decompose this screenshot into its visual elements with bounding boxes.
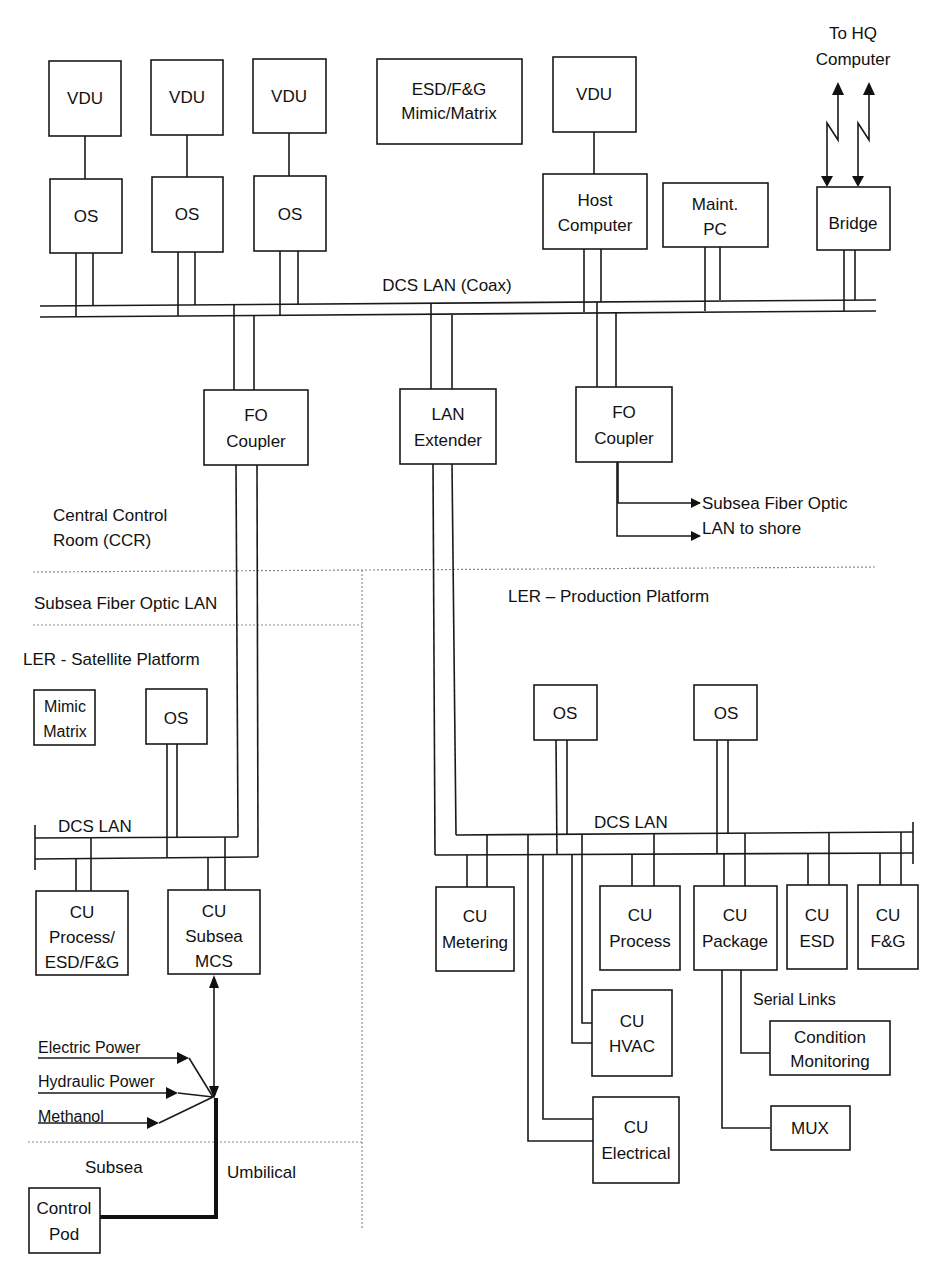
cu-line-1: CU xyxy=(624,1118,649,1137)
cu-line-2: Electrical xyxy=(602,1144,671,1163)
subsea-label: Subsea xyxy=(85,1158,143,1177)
host-computer-line-2: Computer xyxy=(558,216,633,235)
cu-line-1: CU xyxy=(70,903,95,922)
ccr-zone-label: Central Control Room (CCR) xyxy=(53,506,167,550)
production-dcs-lan-label: DCS LAN xyxy=(594,813,668,832)
esd-mimic-matrix: ESD/F&G Mimic/Matrix xyxy=(377,59,522,144)
fo-coupler-right: FO Coupler Subsea Fiber Optic LAN to sho… xyxy=(576,302,848,538)
vdu-label: VDU xyxy=(576,85,612,104)
cu-line-2: Process/ xyxy=(49,928,115,947)
fo-coupler-line-2: Coupler xyxy=(594,429,654,448)
condition-monitoring-line-1: Condition xyxy=(794,1028,866,1047)
fo-coupler-right-box[interactable] xyxy=(576,387,672,462)
condition-monitoring-line-2: Monitoring xyxy=(790,1052,869,1071)
cu-line-1: CU xyxy=(723,906,748,925)
cu-package-box[interactable] xyxy=(694,886,777,970)
maint-pc-line-1: Maint. xyxy=(692,195,738,214)
maint-pc: Maint. PC xyxy=(663,183,768,311)
cu-line-3: MCS xyxy=(195,952,233,971)
lan-extender-box[interactable] xyxy=(400,389,496,464)
satellite-dcs-lan-label: DCS LAN xyxy=(58,817,132,836)
host-computer-line-1: Host xyxy=(578,191,613,210)
cu-metering-box[interactable] xyxy=(436,887,514,971)
cu-process-box[interactable] xyxy=(600,886,680,970)
arrow-down-icon xyxy=(852,176,864,187)
esd-mimic-matrix-box[interactable] xyxy=(377,59,522,144)
dcs-network-diagram: VDU OS VDU OS VDU OS ESD/F&G Mimic/Matri… xyxy=(0,0,948,1272)
to-hq-line-1: To HQ xyxy=(829,24,877,43)
vdu-label: VDU xyxy=(169,88,205,107)
lan-extender-line-1: LAN xyxy=(431,405,464,424)
to-hq-line-2: Computer xyxy=(816,50,891,69)
cu-line-1: CU xyxy=(463,907,488,926)
arrow-right-icon xyxy=(147,1117,159,1129)
esd-mimic-line-2: Mimic/Matrix xyxy=(401,104,497,123)
fo-coupler-line-1: FO xyxy=(244,406,268,425)
vdu-os-column-1: VDU OS xyxy=(49,61,122,316)
cu-line-2: HVAC xyxy=(609,1037,655,1056)
os-label: OS xyxy=(175,205,200,224)
satellite-platform: LER - Satellite Platform Mimic Matrix OS… xyxy=(23,650,296,1253)
mux-label: MUX xyxy=(791,1119,829,1138)
cu-line-1: CU xyxy=(876,906,901,925)
fo-coupler-left-box[interactable] xyxy=(204,390,308,465)
ccr-label-line-2: Room (CCR) xyxy=(53,531,151,550)
arrow-down-icon xyxy=(821,176,833,187)
vdu-label: VDU xyxy=(271,87,307,106)
host-computer-box[interactable] xyxy=(543,174,647,249)
cu-line-2: Process xyxy=(609,932,670,951)
hq-link-1 xyxy=(827,90,838,182)
fo-coupler-line-2: Coupler xyxy=(226,432,286,451)
os-label: OS xyxy=(164,709,189,728)
umbilical-label: Umbilical xyxy=(227,1163,296,1182)
arrow-right-icon xyxy=(166,1087,178,1099)
control-pod-line-2: Pod xyxy=(49,1225,79,1244)
arrow-up-icon xyxy=(863,82,875,95)
production-platform: LER – Production Platform OS OS DCS LAN … xyxy=(435,587,918,1183)
fo-coupler-line-1: FO xyxy=(612,403,636,422)
cu-line-3: ESD/F&G xyxy=(45,953,120,972)
bridge-and-hq-link: To HQ Computer Bridge xyxy=(816,24,891,311)
satellite-zone-label: LER - Satellite Platform xyxy=(23,650,200,669)
cu-line-1: CU xyxy=(628,906,653,925)
hydraulic-power-label: Hydraulic Power xyxy=(38,1073,155,1090)
cu-hvac-box[interactable] xyxy=(592,990,672,1076)
vdu-os-column-2: VDU OS xyxy=(151,60,223,316)
cu-line-2: F&G xyxy=(871,932,906,951)
vdu-os-column-3: VDU OS xyxy=(253,59,326,316)
serial-links-label: Serial Links xyxy=(753,991,836,1008)
cu-line-2: Package xyxy=(702,932,768,951)
control-pod-line-1: Control xyxy=(37,1199,92,1218)
cu-line-2: Subsea xyxy=(185,927,243,946)
os-label: OS xyxy=(714,704,739,723)
cu-line-1: CU xyxy=(202,902,227,921)
production-zone-label: LER – Production Platform xyxy=(508,587,709,606)
bridge-label: Bridge xyxy=(828,214,877,233)
maint-pc-line-2: PC xyxy=(703,220,727,239)
fo-coupler-left: FO Coupler xyxy=(204,305,308,857)
cu-line-2: ESD xyxy=(800,932,835,951)
lan-extender: LAN Extender xyxy=(400,304,496,855)
cu-line-1: CU xyxy=(805,906,830,925)
mimic-matrix-line-2: Matrix xyxy=(43,723,87,740)
host-computer-column: VDU Host Computer xyxy=(543,57,647,312)
cu-esd-box[interactable] xyxy=(787,885,847,969)
lan-extender-line-2: Extender xyxy=(414,431,482,450)
cu-line-2: Metering xyxy=(442,933,508,952)
shore-link-line-1: Subsea Fiber Optic xyxy=(702,494,848,513)
arrow-up-icon xyxy=(832,82,844,95)
cu-electrical-box[interactable] xyxy=(593,1097,679,1183)
os-label: OS xyxy=(74,207,99,226)
ccr-label-line-1: Central Control xyxy=(53,506,167,525)
dcs-lan-coax-label: DCS LAN (Coax) xyxy=(382,276,511,295)
cu-line-1: CU xyxy=(620,1012,645,1031)
arrow-right-icon xyxy=(177,1052,189,1064)
arrow-up-icon xyxy=(209,975,219,988)
mimic-matrix-line-1: Mimic xyxy=(44,698,86,715)
vdu-label: VDU xyxy=(67,89,103,108)
hq-link-2 xyxy=(858,90,869,182)
os-label: OS xyxy=(278,205,303,224)
subsea-fo-lan-label: Subsea Fiber Optic LAN xyxy=(34,594,217,613)
electric-power-label: Electric Power xyxy=(38,1039,141,1056)
cu-fg-box[interactable] xyxy=(858,885,918,969)
